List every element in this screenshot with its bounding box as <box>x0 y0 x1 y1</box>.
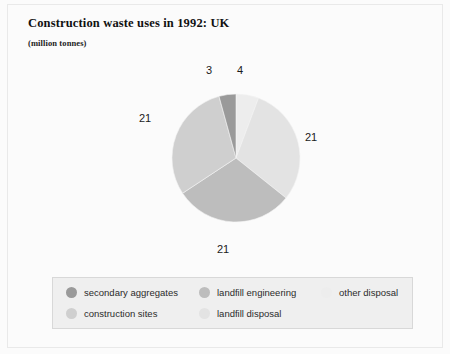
slice-label-secondary-aggregates: 3 <box>206 64 212 76</box>
legend-label: secondary aggregates <box>84 287 178 298</box>
legend-swatch-icon <box>199 308 210 319</box>
legend-item-secondary-aggregates[interactable]: secondary aggregates <box>66 287 178 298</box>
slice-label-other-disposal: 4 <box>237 64 243 76</box>
pie-slice-group <box>172 94 300 222</box>
legend-label: landfill engineering <box>217 287 296 298</box>
legend-item-landfill-disposal[interactable]: landfill disposal <box>199 308 281 319</box>
slice-label-landfill-disposal: 21 <box>305 131 317 143</box>
legend-label: landfill disposal <box>217 308 281 319</box>
legend-swatch-icon <box>66 287 77 298</box>
legend-item-landfill-engineering[interactable]: landfill engineering <box>199 287 296 298</box>
chart-figure: Construction waste uses in 1992: UK (mil… <box>0 0 450 354</box>
slice-label-landfill-engineering: 21 <box>217 243 229 255</box>
legend-swatch-icon <box>66 308 77 319</box>
legend-label: construction sites <box>84 308 157 319</box>
chart-legend: secondary aggregates landfill engineerin… <box>52 277 413 329</box>
legend-item-other-disposal[interactable]: other disposal <box>321 287 398 298</box>
legend-swatch-icon <box>199 287 210 298</box>
legend-label: other disposal <box>339 287 398 298</box>
legend-item-construction-sites[interactable]: construction sites <box>66 308 157 319</box>
slice-label-construction-sites: 21 <box>139 112 151 124</box>
legend-swatch-icon <box>321 287 332 298</box>
